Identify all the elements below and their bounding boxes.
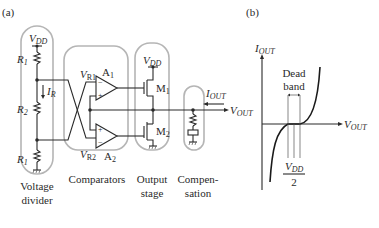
iv-characteristic-plot: IOUT VOUT Dead band VDD 2 <box>254 42 367 190</box>
comp-capacitor-icon <box>188 130 198 135</box>
svg-text:+: + <box>98 125 103 134</box>
vr1-label: VR1 <box>80 68 96 82</box>
vr2-wire <box>37 80 96 138</box>
vdd-half-denominator: 2 <box>291 176 297 188</box>
circuit-figure: (a) VDD R1 IR R2 R1 <box>0 0 379 228</box>
dead-band-label-2: band <box>283 80 305 92</box>
dead-band-label-1: Dead <box>282 67 306 79</box>
vdd-label: VDD <box>29 32 48 46</box>
compensation-label-1: Compen- <box>178 173 219 185</box>
resistor-r2-icon <box>34 102 40 114</box>
ir-label: IR <box>46 85 56 99</box>
output-stage: VDD M1 M2 <box>117 54 170 149</box>
y-axis-label: IOUT <box>254 42 275 56</box>
svg-text:−: − <box>98 78 103 87</box>
a2-label: A2 <box>104 150 116 164</box>
panel-a-label: (a) <box>2 6 15 19</box>
comp-resistor-icon <box>190 114 196 126</box>
svg-text:+: + <box>98 91 103 100</box>
a1-label: A1 <box>102 66 114 80</box>
resistor-r1-top-icon <box>34 52 40 64</box>
x-axis-label: VOUT <box>344 118 367 132</box>
svg-text:−: − <box>98 138 103 147</box>
vout-label: VOUT <box>230 104 253 118</box>
comparators-label: Comparators <box>69 173 126 185</box>
x-axis-arrow-icon <box>338 122 343 126</box>
resistor-r1-bottom-icon <box>34 150 40 162</box>
r1-bottom-label: R1 <box>16 153 28 167</box>
panel-b-label: (b) <box>246 6 259 19</box>
vr1-wire <box>37 82 96 140</box>
voltage-divider-label-1: Voltage <box>20 180 54 192</box>
iout-label: IOUT <box>205 87 226 101</box>
output-stage-label-1: Output <box>137 173 168 185</box>
vout-arrow-icon <box>224 108 229 112</box>
current-arrow-icon <box>41 95 45 99</box>
compensation-label-2: sation <box>185 187 212 199</box>
vdd-half-numerator: VDD <box>285 160 304 174</box>
voltage-divider: VDD R1 IR R2 R1 <box>16 32 56 173</box>
m1-label: M1 <box>156 82 170 96</box>
compensation-group <box>184 86 204 150</box>
r1-top-label: R1 <box>16 53 28 67</box>
compensation <box>188 108 198 145</box>
output-stage-label-2: stage <box>141 187 164 199</box>
r2-label: R2 <box>16 103 28 117</box>
voltage-divider-label-2: divider <box>21 194 52 206</box>
m2-label: M2 <box>156 125 170 139</box>
